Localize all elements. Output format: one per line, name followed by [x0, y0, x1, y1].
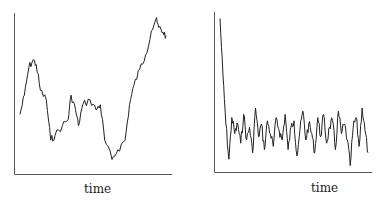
right-line-chart — [190, 0, 381, 200]
left-x-axis-label: time — [84, 182, 111, 196]
left-line-chart — [0, 0, 190, 200]
left-chart-panel: time — [0, 0, 190, 200]
right-chart-panel: time — [190, 0, 381, 200]
right-x-axis-label: time — [311, 181, 338, 195]
right-series-line — [220, 18, 368, 165]
left-series-line — [20, 18, 166, 160]
